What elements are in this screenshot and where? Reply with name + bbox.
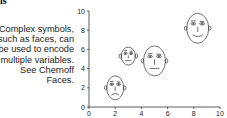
- y-tick-label: 6: [81, 46, 85, 53]
- y-axis-ticks: 0246810: [77, 8, 89, 111]
- chernoff-scatter-chart: 0246810 0246810: [0, 0, 227, 118]
- chernoff-face-marker: [104, 76, 126, 100]
- chernoff-face-marker: [119, 47, 138, 65]
- x-tick-label: 4: [139, 110, 143, 117]
- y-tick-label: 10: [77, 8, 85, 15]
- x-tick-label: 8: [192, 110, 196, 117]
- y-tick-label: 4: [81, 65, 85, 72]
- x-tick-label: 10: [216, 110, 224, 117]
- y-tick-label: 8: [81, 27, 85, 34]
- faces: [104, 13, 211, 100]
- x-tick-label: 0: [87, 110, 91, 117]
- x-tick-label: 6: [166, 110, 170, 117]
- y-tick-label: 0: [81, 104, 85, 111]
- chernoff-face-marker: [141, 46, 168, 76]
- x-tick-label: 2: [113, 110, 117, 117]
- x-axis-ticks: 0246810: [87, 107, 224, 117]
- chernoff-face-marker: [184, 13, 211, 43]
- y-tick-label: 2: [81, 84, 85, 91]
